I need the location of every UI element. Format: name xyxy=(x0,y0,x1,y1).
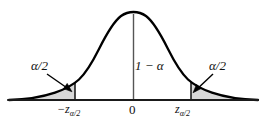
confidence-level-label: 1 − α xyxy=(135,59,164,72)
neg-z-subscript: α/2 xyxy=(70,109,80,118)
normal-distribution-figure: α/2 1 − α α/2 0 −zα/2 zα/2 xyxy=(0,0,271,125)
axis-tick-label-positive-z: zα/2 xyxy=(175,103,190,118)
axis-tick-label-zero: 0 xyxy=(129,103,136,116)
right-tail-alpha-label: α/2 xyxy=(209,59,226,72)
left-tail-alpha-label: α/2 xyxy=(31,59,48,72)
neg-z-base: −z xyxy=(57,102,70,116)
left-tail-shaded-region xyxy=(10,82,75,100)
axis-tick-label-negative-z: −zα/2 xyxy=(57,103,80,118)
pos-z-subscript: α/2 xyxy=(180,109,190,118)
left-annotation-arrow xyxy=(47,74,72,92)
